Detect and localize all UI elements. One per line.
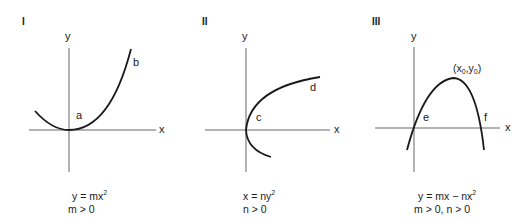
graph-2-x-label: x <box>334 124 340 135</box>
graph-2-condition: n > 0 <box>243 203 267 215</box>
graph-3-x-label: x <box>505 122 511 133</box>
graph-1-point-b: b <box>133 57 139 68</box>
graph-1-y-label: y <box>65 31 71 42</box>
graph-3 <box>375 47 500 172</box>
graph-3-equation: y = mx − nx2 <box>418 190 476 202</box>
graph-3-point-f: f <box>484 112 487 123</box>
graph-1-equation: y = mx2 <box>72 190 107 202</box>
graph-2 <box>205 48 330 172</box>
graph-1-numeral: I <box>22 16 25 27</box>
graph-2-numeral: II <box>202 16 208 27</box>
graph-2-equation: x = ny2 <box>243 190 275 202</box>
graph-3-vertex-label: (x0,y0) <box>453 63 481 74</box>
graph-1-condition: m > 0 <box>68 203 95 215</box>
graph-3-numeral: III <box>372 16 380 27</box>
graph-1-x-label: x <box>159 124 165 135</box>
graph-3-y-label: y <box>411 31 417 42</box>
graph-2-point-d: d <box>310 82 316 93</box>
graph-1-parabola-curve <box>35 49 131 130</box>
graph-3-point-e: e <box>423 112 429 123</box>
graph-2-y-label: y <box>242 31 248 42</box>
graph-3-condition: m > 0, n > 0 <box>414 203 470 215</box>
graph-1-point-a: a <box>76 110 82 121</box>
graph-3-parabola-curve <box>407 78 484 150</box>
graph-2-point-c: c <box>256 112 262 123</box>
